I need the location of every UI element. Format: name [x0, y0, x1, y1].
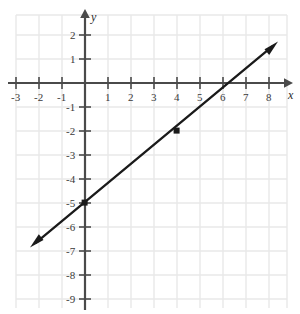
- x-tick-label: 6: [220, 92, 226, 103]
- y-tick-label: -8: [66, 270, 75, 281]
- x-tick-label: 3: [151, 92, 157, 103]
- x-tick-label: 8: [266, 92, 272, 103]
- data-point-4-minus2: [174, 128, 180, 134]
- x-tick-label: 7: [243, 92, 249, 103]
- x-tick-label: 5: [197, 92, 203, 103]
- y-axis-label: y: [91, 11, 96, 23]
- y-tick-label: 2: [70, 30, 76, 41]
- y-tick-label: -5: [66, 198, 75, 209]
- x-tick-label: -2: [34, 92, 43, 103]
- x-tick-label: 2: [128, 92, 134, 103]
- x-tick-label: -3: [11, 92, 20, 103]
- y-tick-label: -6: [66, 222, 75, 233]
- coordinate-plane-chart: [0, 0, 300, 314]
- data-point-0-minus5: [82, 200, 88, 206]
- y-tick-label: 1: [70, 54, 76, 65]
- x-tick-label: 4: [174, 92, 180, 103]
- chart-background: [0, 0, 300, 314]
- y-tick-label: -3: [66, 150, 75, 161]
- y-tick-label: -9: [66, 294, 75, 305]
- x-axis-label: x: [288, 89, 293, 101]
- y-tick-label: -2: [66, 126, 75, 137]
- y-tick-label: -7: [66, 246, 75, 257]
- y-tick-label: -4: [66, 174, 75, 185]
- x-tick-label: 1: [105, 92, 111, 103]
- y-tick-label: -1: [66, 102, 75, 113]
- x-tick-label: -1: [57, 92, 66, 103]
